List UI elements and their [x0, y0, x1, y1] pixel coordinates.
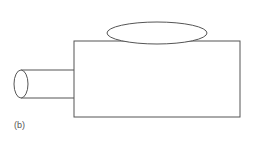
side-cylinder — [14, 70, 74, 98]
top-ellipse — [107, 22, 207, 44]
cylinder-end-ellipse — [14, 70, 28, 98]
main-box — [74, 41, 240, 117]
diagram-canvas — [0, 0, 255, 154]
figure-label: (b) — [14, 120, 25, 130]
